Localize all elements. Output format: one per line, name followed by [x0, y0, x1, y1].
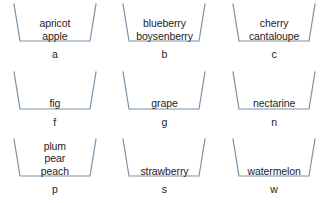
- bucket-item: watermelon: [248, 165, 301, 178]
- bucket-key-label: p: [52, 183, 58, 195]
- bucket-shape: blueberry boysenberry: [122, 3, 206, 44]
- bucket-shape: nectarine: [232, 71, 316, 112]
- bucket-key-label: a: [52, 48, 58, 60]
- bucket-item-list: strawberry: [122, 165, 206, 178]
- bucket-item: nectarine: [253, 97, 295, 110]
- bucket-shape: plum pear peach: [13, 138, 97, 179]
- bucket-item-list: fig: [13, 97, 97, 110]
- bucket-cell: grape g: [110, 68, 220, 136]
- bucket-key-label: b: [162, 48, 168, 60]
- bucket-cell: nectarine n: [219, 68, 329, 136]
- bucket-item: apple: [42, 30, 67, 43]
- bucket-cell: cherry cantaloupe c: [219, 0, 329, 68]
- bucket-item-list: nectarine: [232, 97, 316, 110]
- bucket-item-list: blueberry boysenberry: [122, 17, 206, 42]
- bucket-item: blueberry: [143, 17, 186, 30]
- bucket-cell: strawberry s: [110, 135, 220, 203]
- bucket-item: plum: [44, 140, 66, 153]
- bucket-key-label: g: [162, 116, 168, 128]
- bucket-key-label: w: [270, 183, 278, 195]
- bucket-shape: fig: [13, 71, 97, 112]
- bucket-key-label: c: [272, 48, 277, 60]
- bucket-item: pear: [45, 152, 66, 165]
- bucket-key-label: f: [53, 116, 56, 128]
- bucket-shape: strawberry: [122, 138, 206, 179]
- bucket-grid: apricot apple a blueberry boysenberry b: [0, 0, 329, 203]
- bucket-item-list: plum pear peach: [13, 140, 97, 178]
- bucket-item: peach: [41, 165, 69, 178]
- bucket-item: grape: [151, 97, 177, 110]
- bucket-item: fig: [49, 97, 60, 110]
- bucket-item-list: apricot apple: [13, 17, 97, 42]
- bucket-item: cantaloupe: [249, 30, 299, 43]
- bucket-cell: blueberry boysenberry b: [110, 0, 220, 68]
- bucket-item: boysenberry: [136, 30, 193, 43]
- bucket-shape: watermelon: [232, 138, 316, 179]
- bucket-cell: fig f: [0, 68, 110, 136]
- bucket-shape: apricot apple: [13, 3, 97, 44]
- bucket-shape: grape: [122, 71, 206, 112]
- bucket-cell: plum pear peach p: [0, 135, 110, 203]
- bucket-item-list: cherry cantaloupe: [232, 17, 316, 42]
- bucket-item: cherry: [260, 17, 289, 30]
- bucket-item-list: watermelon: [232, 165, 316, 178]
- bucket-item-list: grape: [122, 97, 206, 110]
- bucket-cell: watermelon w: [219, 135, 329, 203]
- bucket-cell: apricot apple a: [0, 0, 110, 68]
- bucket-diagram: apricot apple a blueberry boysenberry b: [0, 0, 329, 203]
- bucket-item: strawberry: [140, 165, 188, 178]
- bucket-item: apricot: [39, 17, 70, 30]
- bucket-key-label: s: [162, 183, 167, 195]
- bucket-shape: cherry cantaloupe: [232, 3, 316, 44]
- bucket-key-label: n: [271, 116, 277, 128]
